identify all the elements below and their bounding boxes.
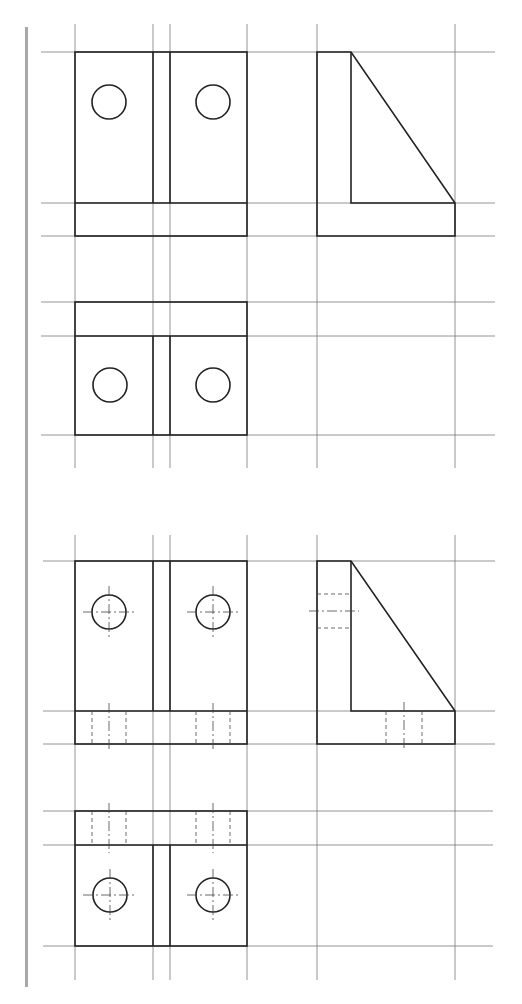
hole-right-circle xyxy=(196,368,230,402)
set-1 xyxy=(41,24,495,468)
hidden-lines xyxy=(317,594,422,744)
hole-right-circle xyxy=(196,85,230,119)
hole-left-circle xyxy=(93,368,127,402)
centerlines xyxy=(83,586,239,752)
top-view-set-1 xyxy=(75,302,247,435)
drawing-sheet: Orthographic views of bracket with two h… xyxy=(0,0,522,1004)
centerlines xyxy=(83,803,239,921)
hole-left-circle xyxy=(92,85,126,119)
drawing-canvas xyxy=(0,0,522,1004)
side-view-set-1 xyxy=(317,52,455,236)
construction-grid-set-2 xyxy=(43,535,495,980)
centerlines xyxy=(309,611,404,751)
front-view-set-2 xyxy=(75,561,247,752)
hidden-lines xyxy=(92,711,230,744)
side-view-set-2 xyxy=(309,561,455,751)
front-view-set-1 xyxy=(75,52,247,236)
set-2 xyxy=(43,535,495,980)
hidden-lines xyxy=(92,811,230,845)
top-view-set-2 xyxy=(75,803,247,946)
